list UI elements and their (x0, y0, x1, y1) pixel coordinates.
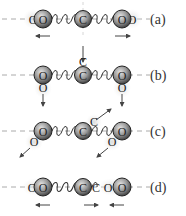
co2-modes-diagram: O O O C O (a) C O O O C O (b) (0, 0, 186, 216)
mode-d: O C O O C O (d) (2, 178, 167, 205)
svg-text:O: O (39, 125, 48, 139)
svg-text:C: C (79, 125, 87, 139)
mode-c: C O C O O O (c) (2, 109, 166, 157)
svg-text:C: C (79, 13, 87, 27)
svg-text:O: O (118, 69, 127, 83)
svg-text:C: C (79, 69, 87, 83)
svg-text:O: O (39, 181, 48, 195)
svg-text:O: O (118, 125, 127, 139)
mode-label: (d) (150, 180, 167, 196)
mode-b: C O O O C O (b) (2, 46, 167, 106)
mode-a: O O O C O (a) (2, 2, 166, 38)
svg-text:O: O (39, 69, 48, 83)
mode-label: (c) (150, 124, 166, 140)
arrow-down-left-icon (20, 148, 30, 157)
ghost-o-right: O (104, 181, 113, 195)
arrow-up-right-icon (96, 109, 111, 120)
arrow-down-left-icon (97, 148, 108, 157)
svg-text:O: O (39, 13, 48, 27)
ghost-o-left: O (30, 135, 39, 149)
svg-text:O: O (118, 13, 127, 27)
mode-label: (a) (150, 12, 166, 28)
mode-label: (b) (150, 68, 167, 84)
svg-text:O: O (118, 181, 127, 195)
ghost-o-right: O (108, 135, 117, 149)
svg-text:C: C (79, 181, 87, 195)
